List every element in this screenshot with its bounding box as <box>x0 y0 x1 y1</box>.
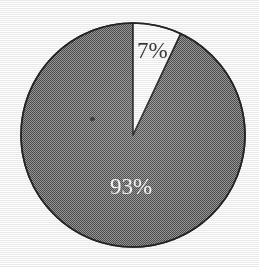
pie-chart-figure: 7% 93% <box>0 0 259 267</box>
pie-slices-group <box>21 23 245 247</box>
pie-shading-overlay <box>22 24 244 246</box>
pie-chart-svg <box>0 0 259 267</box>
